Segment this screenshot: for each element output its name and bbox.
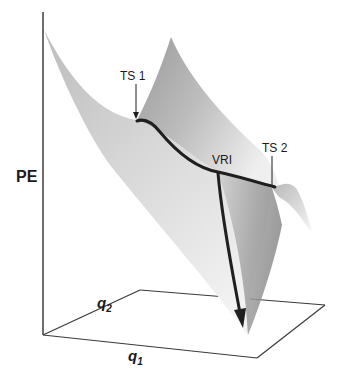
ts2-label: TS 2 <box>262 141 288 155</box>
q2-axis-label: q2 <box>97 294 112 314</box>
vri-label: VRI <box>212 153 232 167</box>
q2-axis-line <box>43 290 140 335</box>
ts1-label: TS 1 <box>120 69 146 83</box>
q1-axis-label: q1 <box>128 347 143 367</box>
pe-axis-label: PE <box>16 168 38 185</box>
base-plane <box>43 290 325 358</box>
pes-diagram: TS 1 VRI TS 2 PE q2 q1 <box>0 0 341 378</box>
q1-axis-line <box>43 335 257 358</box>
plane-right-edge <box>257 305 325 358</box>
